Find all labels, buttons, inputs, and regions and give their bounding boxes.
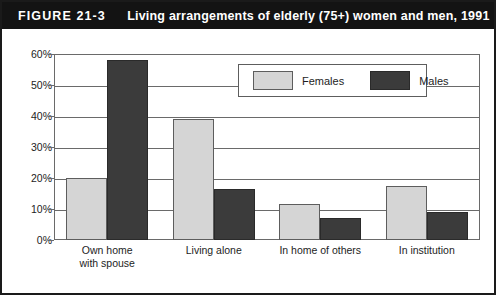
bar-females [66,178,107,240]
chart-area: 0%10%20%30%40%50%60% Females Males Own h… [2,29,494,293]
figure-container: FIGURE 21-3 Living arrangements of elder… [0,0,496,295]
bar-males [427,212,468,240]
figure-number-label: FIGURE 21-3 [18,9,106,23]
x-axis-label: Own homewith spouse [54,244,161,269]
legend-swatch-females-icon [253,71,293,90]
figure-title-bar: FIGURE 21-3 Living arrangements of elder… [2,2,494,29]
legend-item-males: Males [370,71,448,90]
y-axis-tick-label: 50% [6,79,52,91]
page-title: FIGURE 21-3 Living arrangements of elder… [2,9,490,23]
x-axis-label: Living alone [161,244,268,257]
y-axis-tick-label: 60% [6,48,52,60]
bar-females [173,119,214,240]
x-axis-label: In home of others [267,244,374,257]
y-axis-tick-label: 10% [6,203,52,215]
bar-males [320,218,361,240]
legend-label-females: Females [302,75,344,87]
bar-males [107,60,148,240]
legend-label-males: Males [419,75,448,87]
y-axis-tick-label: 0% [6,234,52,246]
legend-item-females: Females [253,71,344,90]
bar-females [386,186,427,240]
figure-title-text: Living arrangements of elderly (75+) wom… [127,9,489,23]
y-axis-tick-label: 30% [6,141,52,153]
bar-males [214,189,255,240]
x-axis-category-labels: Own homewith spouseLiving aloneIn home o… [54,244,480,284]
x-axis-label: In institution [374,244,481,257]
legend-swatch-males-icon [370,71,410,90]
y-axis-tick-label: 40% [6,110,52,122]
chart-legend: Females Males [238,64,427,97]
y-axis-tick-label: 20% [6,172,52,184]
y-axis: 0%10%20%30%40%50%60% [2,29,52,293]
bar-females [279,204,320,240]
y-axis-tick-mark [48,240,54,241]
